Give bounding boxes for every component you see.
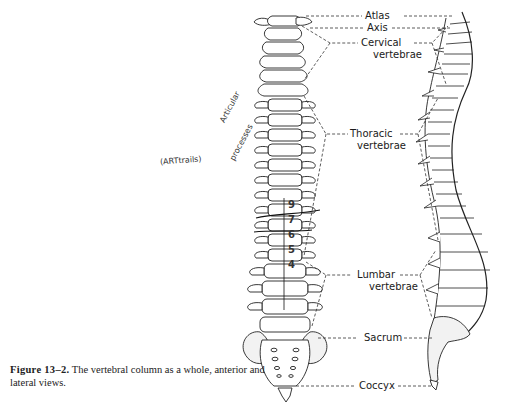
label-axis: Axis <box>366 22 389 33</box>
label-lumbar-vertebrae: vertebrae <box>368 281 419 292</box>
vertebra-number: 6 <box>288 229 295 240</box>
vertebra-number: 4 <box>288 259 295 270</box>
figure-caption: Figure 13–2. The vertebral column as a w… <box>10 363 280 389</box>
figure: Atlas Axis Cervical vertebrae Thoracic v… <box>0 0 517 406</box>
label-cervical-vertebrae: vertebrae <box>372 49 423 60</box>
label-thoracic-vertebrae: vertebrae <box>356 140 407 151</box>
anterior-spine <box>243 16 327 402</box>
vertebral-column-diagram <box>0 0 517 406</box>
label-thoracic: Thoracic <box>349 128 394 139</box>
label-sacrum: Sacrum <box>363 332 403 343</box>
vertebra-number: 5 <box>288 244 295 255</box>
label-atlas: Atlas <box>364 10 391 21</box>
caption-label: Figure 13–2. <box>10 364 69 375</box>
vertebra-number: 9 <box>288 199 295 210</box>
lateral-spine <box>416 12 490 390</box>
vertebra-number: 7 <box>288 214 295 225</box>
label-lumbar: Lumbar <box>356 269 396 280</box>
label-cervical: Cervical <box>360 37 402 48</box>
label-coccyx: Coccyx <box>358 380 396 391</box>
